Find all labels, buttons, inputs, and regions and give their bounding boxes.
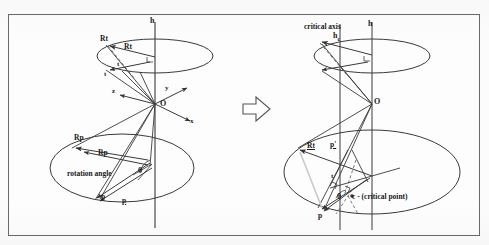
- theta-symbol-right: θ: [337, 192, 341, 201]
- right-t-label: t: [331, 172, 333, 180]
- critical-axis-sub: c: [337, 36, 340, 42]
- lower-ellipse: [50, 134, 194, 202]
- cone-line-upper-a: [106, 45, 155, 104]
- rp-label-lower: Rp: [98, 148, 108, 157]
- left-origin-label: O: [160, 99, 166, 108]
- rt-label-upper-right: Rt: [124, 42, 132, 51]
- transition-arrow-group: [243, 97, 270, 121]
- right-origin-label: O: [374, 97, 380, 106]
- diagram-vector-layer: [0, 0, 489, 245]
- right-angle-tick-upper-r: [364, 56, 370, 61]
- right-angle-tick-upper: [147, 57, 153, 62]
- t-vector-label: t: [117, 60, 119, 68]
- rp-label-upper: Rp: [74, 133, 84, 142]
- right-arrow-icon: [243, 97, 270, 121]
- t-point-label: t: [104, 70, 106, 78]
- p-label-right: p: [122, 196, 126, 205]
- critical-axis-symbol: hc: [333, 31, 340, 42]
- rotation-angle-text: rotation angle: [67, 169, 112, 178]
- r-cone-c: [345, 72, 372, 104]
- r-rt-vector: [300, 150, 372, 176]
- axis-x-label: x: [190, 117, 194, 125]
- p-label-left: p: [101, 192, 105, 201]
- cone-line-upper-c: [122, 71, 155, 104]
- rp-vector-upper: [76, 148, 148, 160]
- t-vector: [110, 62, 150, 70]
- axis-z: [120, 95, 155, 104]
- left-h-axis-label: h: [150, 16, 154, 25]
- theta-symbol-left: θ: [138, 166, 142, 175]
- r-faint-line: [300, 152, 322, 208]
- right-h-axis-label: h: [368, 19, 372, 28]
- figure-canvas: h Rt Rt t t y z x O Rp Rp p p rotation a…: [0, 0, 489, 245]
- critical-point-text: c - (critical point): [352, 192, 408, 201]
- r-pprime-a: [330, 150, 348, 186]
- axis-z-label: z: [112, 87, 115, 95]
- r-cone-b: [322, 71, 372, 104]
- cone-line-lower-d: [150, 104, 155, 166]
- right-p-label: p: [318, 211, 322, 220]
- right-pprime-label: p': [330, 140, 336, 149]
- r-upper-vec-b: [322, 62, 368, 70]
- critical-axis-text: critical axis: [304, 22, 341, 31]
- left-diagram: [50, 22, 213, 228]
- right-rt-label: Rt: [307, 141, 315, 150]
- axis-y-label: y: [165, 84, 169, 92]
- rt-label-upper-left: Rt: [100, 34, 108, 43]
- rt-vector-upper: [110, 46, 155, 57]
